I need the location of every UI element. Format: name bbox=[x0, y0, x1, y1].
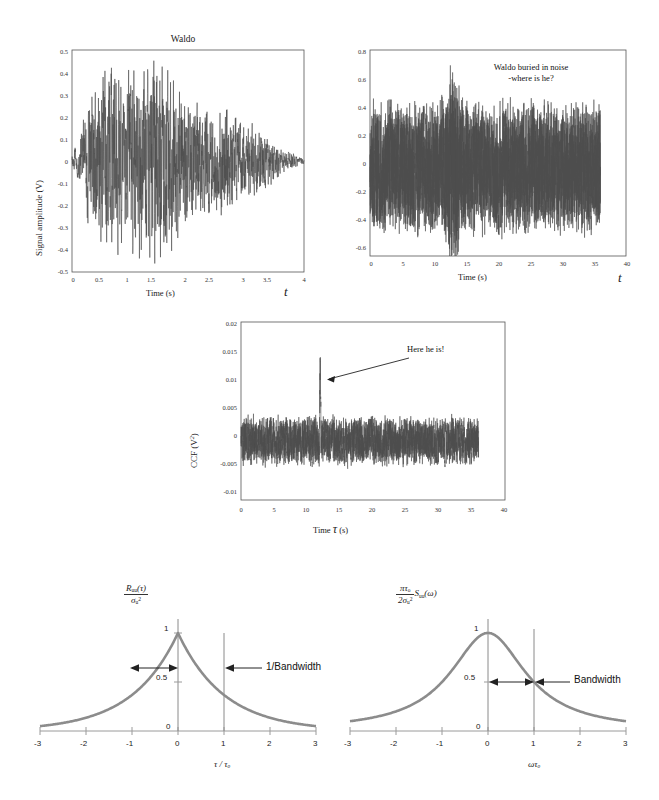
waldo-ytick: 0.4 bbox=[44, 70, 68, 77]
ccf-y-label-main: CCF (V bbox=[189, 439, 199, 468]
waldo-ytick: -0.4 bbox=[44, 246, 68, 253]
ccf-xtick: 35 bbox=[464, 506, 478, 513]
noise-ytick: 0.6 bbox=[340, 76, 366, 83]
ccf-xtick: 10 bbox=[299, 506, 313, 513]
noise-xtick: 20 bbox=[492, 260, 506, 267]
ccf-x-axis-label: Time τ (s) bbox=[313, 522, 348, 537]
acf-width-arrow-head-left-icon bbox=[130, 664, 139, 672]
waldo-ytick: 0.2 bbox=[44, 114, 68, 121]
noise-annotation-line2: -where is he? bbox=[508, 73, 553, 83]
acf-x-label-numerator: τ bbox=[214, 759, 217, 769]
waldo-ytick: -0.3 bbox=[44, 224, 68, 231]
ccf-xtick: 30 bbox=[431, 506, 445, 513]
acf-ytick-one: 1 bbox=[164, 624, 168, 633]
waldo-ytick: -0.1 bbox=[44, 180, 68, 187]
noise-trace-line bbox=[370, 65, 600, 256]
ccf-y-label-sup: 2 bbox=[189, 436, 195, 439]
ccf-ytick: 0.01 bbox=[205, 376, 237, 383]
ccf-y-axis-label: CCF (V2) bbox=[189, 433, 199, 468]
ccf-ytick: -0.01 bbox=[205, 488, 237, 495]
acf-ytick-zero: 0 bbox=[166, 722, 170, 731]
psd-ytick-zero: 0 bbox=[476, 722, 480, 731]
psd-xtick: 3 bbox=[623, 739, 627, 748]
noise-xtick: 25 bbox=[524, 260, 538, 267]
waldo-ytick: 0.5 bbox=[44, 48, 68, 55]
acf-xtick: -2 bbox=[80, 739, 87, 748]
acf-sigma-superscript: 2 bbox=[138, 595, 141, 601]
psd-denominator-sup: 2 bbox=[410, 595, 413, 601]
psd-x-axis-label: ωτo bbox=[528, 759, 540, 769]
psd-S-argument: (ω) bbox=[424, 588, 436, 598]
noise-ytick: -0.6 bbox=[340, 244, 366, 251]
ccf-x-label-tau: τ bbox=[333, 522, 337, 536]
waldo-xtick: 1.5 bbox=[144, 276, 158, 283]
ccf-ytick: 0 bbox=[205, 432, 237, 439]
psd-ytick-half: 0.5 bbox=[464, 673, 475, 682]
psd-xtick: 2 bbox=[577, 739, 581, 748]
psd-xtick: -2 bbox=[390, 739, 397, 748]
ccf-xtick: 5 bbox=[269, 506, 279, 513]
ccf-x-label-post: (s) bbox=[339, 525, 348, 535]
panel-power-spectral-density: πτo 2σu2 Suu(ω) bbox=[338, 583, 638, 783]
waldo-xtick: 2 bbox=[180, 276, 190, 283]
waldo-ytick: 0.1 bbox=[44, 136, 68, 143]
waldo-xtick: 0 bbox=[68, 276, 78, 283]
psd-bandwidth-annotation: Bandwidth bbox=[574, 674, 621, 685]
waldo-ytick: 0 bbox=[44, 158, 68, 165]
noise-annotation-line1: Waldo buried in noise bbox=[494, 62, 569, 72]
panel-waldo-signal: Waldo Signal amplitude (V) 0.5 0.4 0.3 0… bbox=[28, 34, 318, 314]
acf-width-arrow-head-right-icon bbox=[169, 664, 178, 672]
panel-waldo-in-noise: 0.8 0.6 0.4 0.2 0 -0.2 -0.4 -0.6 Waldo b… bbox=[338, 34, 648, 314]
noise-xtick: 40 bbox=[620, 260, 634, 267]
ccf-annotation-arrow bbox=[329, 358, 409, 379]
waldo-ytick: 0.3 bbox=[44, 92, 68, 99]
panel-waldo-title: Waldo bbox=[68, 34, 298, 44]
noise-xtick: 35 bbox=[588, 260, 602, 267]
psd-xtick: -1 bbox=[436, 739, 443, 748]
acf-xtick: -3 bbox=[34, 739, 41, 748]
ccf-ytick: -0.005 bbox=[205, 460, 237, 467]
psd-y-axis-formula: πτo 2σu2 Suu(ω) bbox=[396, 583, 437, 605]
noise-ytick: -0.2 bbox=[340, 188, 366, 195]
acf-R-argument: (τ) bbox=[137, 583, 146, 593]
ccf-xtick: 20 bbox=[365, 506, 379, 513]
acf-y-axis-formula: Ruu(τ) σu2 bbox=[124, 583, 148, 605]
ccf-xtick: 15 bbox=[332, 506, 346, 513]
waldo-ytick: -0.2 bbox=[44, 202, 68, 209]
psd-x-label-sub: o bbox=[538, 763, 541, 769]
waldo-ytick: -0.5 bbox=[44, 268, 68, 275]
waldo-x-axis-label: Time (s) bbox=[146, 288, 175, 298]
panel-autocorrelation: Ruu(τ) σu2 bbox=[28, 583, 328, 783]
ccf-xtick: 25 bbox=[398, 506, 412, 513]
noise-ytick: 0 bbox=[340, 160, 366, 167]
ccf-y-label-close: ) bbox=[189, 433, 199, 436]
acf-annotation-arrow-head-icon bbox=[225, 664, 234, 672]
ccf-xtick: 40 bbox=[497, 506, 511, 513]
acf-xtick: 2 bbox=[267, 739, 271, 748]
waldo-xtick: 3.5 bbox=[260, 276, 274, 283]
psd-xtick: -3 bbox=[344, 739, 351, 748]
ccf-trace-line bbox=[241, 357, 479, 469]
psd-xtick: 1 bbox=[531, 739, 535, 748]
psd-bandwidth-arrow-head-left-icon bbox=[489, 678, 498, 686]
noise-ytick: 0.8 bbox=[340, 48, 366, 55]
psd-denominator: 2σ bbox=[398, 595, 407, 605]
waldo-x-variable: t bbox=[284, 284, 288, 300]
acf-ytick-half: 0.5 bbox=[156, 673, 167, 682]
acf-xtick: 3 bbox=[313, 739, 317, 748]
waldo-xtick: 0.5 bbox=[92, 276, 106, 283]
acf-bandwidth-annotation: 1/Bandwidth bbox=[266, 661, 321, 672]
psd-x-label-omega-tau: ωτ bbox=[528, 759, 538, 769]
ccf-annotation-label: Here he is! bbox=[407, 344, 497, 355]
noise-ytick: -0.4 bbox=[340, 216, 366, 223]
figure-root: Waldo Signal amplitude (V) 0.5 0.4 0.3 0… bbox=[0, 0, 659, 800]
acf-x-axis-label: τ / τo bbox=[214, 759, 230, 769]
ccf-ytick: 0.02 bbox=[205, 320, 237, 327]
ccf-ytick: 0.015 bbox=[205, 348, 237, 355]
psd-ytick-one: 1 bbox=[474, 624, 478, 633]
noise-xtick: 0 bbox=[366, 260, 376, 267]
waldo-y-axis-label: Signal amplitude (V) bbox=[34, 180, 44, 256]
waldo-xtick: 4 bbox=[299, 276, 309, 283]
noise-annotation: Waldo buried in noise -where is he? bbox=[456, 62, 606, 85]
ccf-x-label-pre: Time bbox=[313, 525, 331, 535]
